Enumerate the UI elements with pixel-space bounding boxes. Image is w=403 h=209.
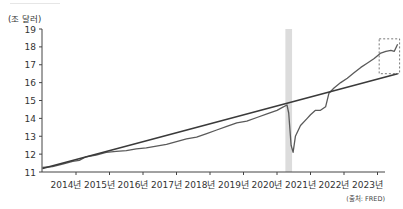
y-tick-label: 13 (25, 132, 36, 142)
x-tick-label: 2018년 (185, 180, 216, 190)
x-tick-label: 2020년 (252, 180, 283, 190)
y-tick-label: 16 (25, 78, 37, 88)
x-tick-label: 2022년 (319, 180, 350, 190)
x-tick-label: 2021년 (285, 180, 316, 190)
x-tick-label: 2023년 (352, 180, 383, 190)
y-tick-label: 15 (25, 96, 36, 106)
y-tick-label: 12 (25, 150, 36, 160)
x-tick-label: 2014년 (51, 180, 82, 190)
series-line-actual (43, 44, 398, 167)
x-tick-label: 2019년 (218, 180, 249, 190)
line-chart: 1112131415161718192014년2015년2016년2017년20… (0, 0, 403, 209)
x-tick-label: 2017년 (151, 180, 182, 190)
highlight-dashed-box (379, 39, 399, 74)
x-tick-label: 2015년 (84, 180, 115, 190)
series-line-trend (43, 74, 398, 169)
y-tick-label: 17 (25, 60, 36, 70)
y-tick-label: 18 (25, 42, 37, 52)
y-tick-label: 11 (25, 168, 36, 178)
x-tick-label: 2016년 (118, 180, 149, 190)
y-tick-label: 14 (25, 114, 37, 124)
recession-band (285, 29, 292, 172)
y-tick-label: 19 (25, 25, 37, 35)
